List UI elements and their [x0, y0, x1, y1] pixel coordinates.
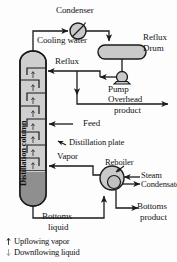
pump-symbol	[114, 72, 130, 85]
condensate-label: Condensate	[141, 180, 177, 189]
distillation-plate-pointer	[58, 141, 66, 145]
distillation-column-label: Distillation column	[18, 121, 28, 186]
reboiler-symbol	[100, 166, 124, 190]
overhead-product-label-line1: Overhead	[108, 95, 142, 104]
distillation-column-diagram: Condenser Cooling water Reflux Drum Refl…	[0, 0, 177, 262]
reflux-label: Reflux	[55, 57, 79, 66]
legend-item-upflowing-vapor: Upflowing vapor	[5, 236, 69, 246]
reboiler-label: Reboiler	[105, 158, 133, 167]
bottoms-product-label-line2: product	[140, 213, 167, 222]
overhead-product-label-line2: product	[114, 106, 141, 115]
bottoms-product-label-line1: Bottoms	[137, 202, 167, 211]
cooling-water-label: Cooling water	[37, 36, 87, 45]
feed-label: Feed	[83, 119, 100, 128]
bottoms-liquid-label-line1: Bottoms	[42, 212, 72, 221]
condenser-to-drum-line	[86, 31, 109, 41]
reflux-drum-label-line2: Drum	[143, 44, 164, 53]
steam-condensate-lines	[122, 177, 140, 184]
legend-label-downflowing-liquid: Downflowing liquid	[14, 247, 80, 257]
upflowing-vapor-arrow-icon	[5, 237, 12, 246]
vapor-label: Vapor	[57, 152, 78, 161]
reflux-drum-vessel	[98, 45, 146, 59]
bottoms-product-line	[116, 190, 138, 208]
condenser-label: Condenser	[56, 6, 94, 15]
pump-label: Pump	[108, 85, 129, 94]
legend-item-downflowing-liquid: Downflowing liquid	[5, 247, 80, 257]
bottoms-liquid-label-line2: liquid	[48, 223, 68, 232]
downflowing-liquid-arrow-icon	[5, 248, 12, 257]
legend-label-upflowing-vapor: Upflowing vapor	[14, 236, 69, 246]
reflux-drum-label-line1: Reflux	[143, 33, 167, 42]
distillation-plate-label: Distillation plate	[69, 138, 124, 147]
